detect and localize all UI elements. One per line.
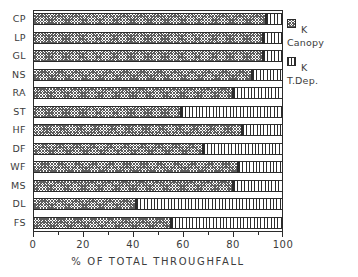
- bar-segment-canopy: [33, 13, 266, 25]
- bar-row: [33, 69, 283, 81]
- bar-segment-canopy: [33, 69, 252, 81]
- legend-label: KCanopy: [287, 24, 358, 49]
- bar-row: [33, 32, 283, 44]
- x-axis-minor-tick: [208, 232, 209, 235]
- bar-segment-canopy: [33, 50, 263, 62]
- bar-segment-tdep: [266, 13, 284, 25]
- y-axis-tick-label: WF: [10, 161, 26, 173]
- x-axis-major-tick: [83, 232, 84, 237]
- x-axis-minor-tick: [158, 232, 159, 235]
- x-axis-tick-label: 100: [273, 239, 294, 250]
- bar-segment-canopy: [33, 143, 203, 155]
- chart-legend: KCanopyKT.Dep.: [287, 18, 358, 93]
- bar-row: [33, 87, 283, 99]
- y-axis-tick-label: RA: [12, 87, 26, 99]
- bar-row: [33, 50, 283, 62]
- bar-row: [33, 143, 283, 155]
- bar-segment-tdep: [263, 32, 283, 44]
- bar-segment-tdep: [203, 143, 283, 155]
- x-axis-title: % OF TOTAL THROUGHFALL: [33, 256, 283, 267]
- bar-segment-tdep: [181, 106, 284, 118]
- legend-label-line1: K: [301, 24, 307, 35]
- bar-row: [33, 13, 283, 25]
- bar-segment-tdep: [136, 198, 284, 210]
- bar-segment-tdep: [252, 69, 283, 81]
- x-axis-tick-label: 60: [176, 239, 190, 250]
- bars-layer: [33, 10, 283, 232]
- y-axis-tick-label: GL: [13, 50, 26, 62]
- legend-swatch-canopy-icon: [287, 19, 296, 28]
- legend-label-line2: Canopy: [287, 37, 358, 49]
- x-axis-tick-label: 80: [226, 239, 240, 250]
- y-axis-tick-label: HF: [13, 124, 26, 136]
- bar-segment-canopy: [33, 180, 233, 192]
- bar-row: [33, 124, 283, 136]
- x-axis-tick-label: 40: [126, 239, 140, 250]
- x-axis-minor-tick: [258, 232, 259, 235]
- bar-row: [33, 106, 283, 118]
- stacked-bar-chart: CPLPGLNSRASTHFDFWFMSDLFS 020406080100 % …: [0, 0, 358, 277]
- bar-segment-canopy: [33, 106, 181, 118]
- y-axis-tick-label: DL: [13, 198, 26, 210]
- bar-row: [33, 217, 283, 229]
- y-axis-tick-label: MS: [11, 180, 26, 192]
- legend-entry: KCanopy: [287, 18, 358, 49]
- bar-segment-tdep: [233, 87, 283, 99]
- bar-segment-canopy: [33, 32, 263, 44]
- x-axis-tick-label: 0: [30, 239, 37, 250]
- bar-segment-tdep: [233, 180, 283, 192]
- bar-row: [33, 180, 283, 192]
- bar-segment-tdep: [242, 124, 283, 136]
- x-axis-tick-label: 20: [76, 239, 90, 250]
- y-axis-tick-label: ST: [13, 106, 26, 118]
- legend-label-line1: K: [301, 62, 307, 73]
- bar-segment-canopy: [33, 124, 242, 136]
- bar-segment-tdep: [263, 50, 283, 62]
- x-axis-tick-labels: 020406080100: [33, 239, 283, 253]
- legend-entry: KT.Dep.: [287, 56, 358, 87]
- y-axis-tick-label: LP: [14, 32, 26, 44]
- legend-label-line2: T.Dep.: [287, 75, 358, 87]
- y-axis-tick-label: FS: [14, 217, 26, 229]
- bar-segment-canopy: [33, 87, 233, 99]
- bar-row: [33, 161, 283, 173]
- x-axis-major-tick: [33, 232, 34, 237]
- x-axis-major-tick: [282, 232, 283, 237]
- x-axis-ticks: [33, 232, 283, 238]
- bar-segment-canopy: [33, 217, 171, 229]
- y-axis-tick-label: NS: [12, 69, 26, 81]
- legend-label: KT.Dep.: [287, 62, 358, 87]
- legend-swatch-tdep-icon: [287, 57, 296, 66]
- bar-row: [33, 198, 283, 210]
- x-axis-major-tick: [233, 232, 234, 237]
- y-axis-tick-labels: CPLPGLNSRASTHFDFWFMSDLFS: [0, 10, 30, 232]
- x-axis-minor-tick: [108, 232, 109, 235]
- y-axis-tick-label: CP: [13, 13, 26, 25]
- bar-segment-canopy: [33, 198, 136, 210]
- bar-segment-tdep: [238, 161, 283, 173]
- x-axis-major-tick: [133, 232, 134, 237]
- bar-segment-canopy: [33, 161, 238, 173]
- x-axis-major-tick: [183, 232, 184, 237]
- x-axis-minor-tick: [58, 232, 59, 235]
- bar-segment-tdep: [171, 217, 284, 229]
- y-axis-tick-label: DF: [12, 143, 26, 155]
